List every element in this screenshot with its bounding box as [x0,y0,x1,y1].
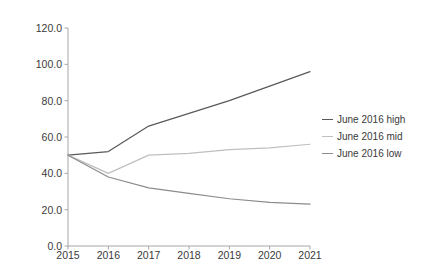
x-axis-tick-label: 2016 [97,250,120,261]
x-axis-tick-label: 2020 [258,250,281,261]
y-axis-tick-label: 20.0 [16,204,62,215]
series-line-june-2016-mid [68,144,310,173]
x-axis-tick-label: 2021 [298,250,321,261]
legend-item[interactable]: June 2016 high [322,112,426,127]
y-axis-tick-label: 100.0 [16,59,62,70]
line-chart: 0.020.040.060.080.0100.0120.0 2015201620… [0,0,428,272]
series-line-june-2016-high [68,72,310,156]
legend-line-icon [322,136,333,137]
legend-item[interactable]: June 2016 mid [322,129,426,144]
legend-line-icon [322,153,333,154]
x-axis-tick-label: 2015 [56,250,79,261]
legend-item-label: June 2016 mid [337,132,403,142]
legend-item[interactable]: June 2016 low [322,146,426,161]
y-axis-tick-labels: 0.020.040.060.080.0100.0120.0 [10,28,62,246]
legend-item-label: June 2016 low [337,149,402,159]
chart-series-group [68,72,310,205]
legend-item-label: June 2016 high [337,115,405,125]
x-axis-tick-label: 2019 [218,250,241,261]
y-axis-tick-label: 40.0 [16,168,62,179]
chart-legend: June 2016 highJune 2016 midJune 2016 low [322,112,426,163]
y-axis-tick-label: 60.0 [16,132,62,143]
chart-axes [65,28,311,250]
x-axis-tick-label: 2017 [137,250,160,261]
y-axis-tick-label: 80.0 [16,95,62,106]
x-axis-tick-label: 2018 [177,250,200,261]
series-line-june-2016-low [68,155,310,204]
x-axis-tick-labels: 2015201620172018201920202021 [68,250,310,266]
y-axis-tick-label: 0.0 [16,241,62,252]
legend-line-icon [322,119,333,120]
y-axis-tick-label: 120.0 [16,23,62,34]
